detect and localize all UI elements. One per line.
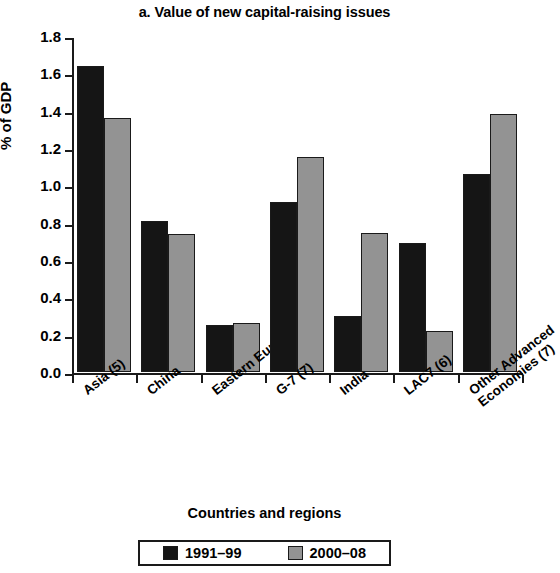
legend-entry-0: 1991–99 (163, 545, 241, 561)
bar-0-4 (334, 316, 361, 372)
plot-area: 1.81.61.41.21.00.80.60.40.20.0Asia (5)Ch… (72, 38, 522, 374)
y-axis-tick-label: 0.4 (40, 289, 61, 307)
legend-label: 1991–99 (185, 545, 241, 561)
x-axis-tick (136, 375, 138, 383)
bar-0-1 (141, 221, 168, 372)
bar-1-0 (104, 118, 131, 372)
chart-title: a. Value of new capital-raising issues (0, 4, 529, 20)
y-axis-tick: 0.4 (65, 299, 72, 301)
y-axis-tick-label: 1.6 (40, 65, 61, 83)
y-axis-tick: 0.2 (65, 337, 72, 339)
bar-1-6 (490, 114, 517, 372)
x-axis-tick (522, 375, 524, 383)
legend-label: 2000–08 (310, 545, 366, 561)
x-axis-title: Countries and regions (0, 505, 529, 521)
x-axis-tick (458, 375, 460, 383)
gray-swatch (288, 546, 303, 560)
y-axis-line (72, 38, 74, 375)
y-axis-tick: 1.6 (65, 75, 72, 77)
bar-0-3 (270, 202, 297, 372)
y-axis-tick-label: 1.0 (40, 177, 61, 195)
y-axis-tick: 1.4 (65, 113, 72, 115)
y-axis-tick-label: 1.8 (40, 28, 61, 46)
bar-1-1 (168, 234, 195, 372)
y-axis-tick-label: 1.4 (40, 103, 61, 121)
x-axis-tick (265, 375, 267, 383)
x-axis-tick (329, 375, 331, 383)
y-axis-tick-label: 0.8 (40, 215, 61, 233)
y-axis-tick: 0.8 (65, 225, 72, 227)
bar-0-2 (206, 325, 233, 372)
x-axis-tick (393, 375, 395, 383)
bar-0-6 (463, 174, 490, 372)
y-axis-tick-label: 0.6 (40, 252, 61, 270)
bar-1-3 (297, 157, 324, 372)
y-axis-tick: 1.2 (65, 150, 72, 152)
bar-0-5 (399, 243, 426, 372)
y-axis-tick: 0.6 (65, 262, 72, 264)
y-axis-tick: 1.8 (65, 38, 72, 40)
bar-0-0 (77, 66, 104, 372)
y-axis-tick-label: 0.2 (40, 327, 61, 345)
y-axis-tick: 0.0 (65, 374, 72, 376)
chart-legend: 1991–992000–08 (138, 540, 391, 566)
x-axis-tick (72, 375, 74, 383)
y-axis-label: % of GDP (0, 82, 14, 150)
legend-entry-1: 2000–08 (288, 545, 366, 561)
y-axis-tick-label: 1.2 (40, 140, 61, 158)
y-axis-tick: 1.0 (65, 187, 72, 189)
bar-1-4 (361, 233, 388, 372)
x-axis-tick (201, 375, 203, 383)
black-swatch (163, 546, 178, 560)
y-axis-tick-label: 0.0 (40, 364, 61, 382)
